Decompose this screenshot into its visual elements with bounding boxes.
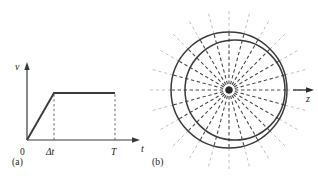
origin-label: 0 <box>20 147 25 157</box>
spoke <box>179 61 229 90</box>
spoke <box>229 49 270 90</box>
spoke-extension <box>189 21 200 40</box>
x-axis <box>27 137 140 142</box>
radial-spoke-chart: z <box>159 0 318 181</box>
spoke-extension <box>160 119 179 130</box>
spoke <box>188 90 229 131</box>
convergence-point <box>225 86 232 93</box>
velocity-curve <box>27 93 115 140</box>
spoke-extension <box>285 105 306 111</box>
spoke <box>229 90 285 105</box>
spoke <box>229 75 285 90</box>
caption-panel-a: (a) <box>12 157 23 167</box>
spoke-extension <box>244 13 250 34</box>
x-tick-delta-t: Δt <box>45 147 55 157</box>
spoke <box>229 40 258 90</box>
spoke <box>173 90 229 105</box>
spoke-extension <box>208 13 214 34</box>
spoke <box>229 90 258 140</box>
x-axis-label: t <box>141 143 144 154</box>
spoke-extension <box>172 131 188 147</box>
spoke-extension <box>160 50 179 61</box>
z-axis-label: z <box>305 93 310 104</box>
spoke <box>229 90 279 119</box>
spoke-extension <box>172 33 188 49</box>
spoke <box>229 61 279 90</box>
y-axis-label: v <box>15 61 20 72</box>
spoke <box>179 90 229 119</box>
spoke <box>229 34 244 90</box>
spoke-extension <box>208 146 214 167</box>
spoke-extension <box>258 140 269 159</box>
spoke-extension <box>270 131 286 147</box>
spoke-extension <box>189 140 200 159</box>
y-axis <box>24 62 29 140</box>
figure-container: v t 0 Δt T z <box>0 0 318 181</box>
panel-a-velocity-time: v t 0 Δt T <box>0 0 159 181</box>
spoke <box>200 90 229 140</box>
spoke-extension <box>279 50 298 61</box>
spoke-extension <box>270 33 286 49</box>
z-axis-arrow <box>293 87 314 93</box>
spoke-extension <box>244 146 250 167</box>
spoke <box>173 75 229 90</box>
spoke-extension <box>279 119 298 130</box>
spoke <box>229 90 270 131</box>
spoke-extension <box>285 69 306 75</box>
spoke <box>188 49 229 90</box>
spoke <box>200 40 229 90</box>
velocity-time-chart: v t 0 Δt T <box>0 0 159 181</box>
caption-panel-b: (b) <box>152 157 164 167</box>
spoke-extension <box>258 21 269 40</box>
spoke <box>229 90 244 146</box>
x-tick-T: T <box>111 147 117 157</box>
panel-b-radial-diagram: z <box>159 0 318 181</box>
droplines <box>54 93 115 140</box>
